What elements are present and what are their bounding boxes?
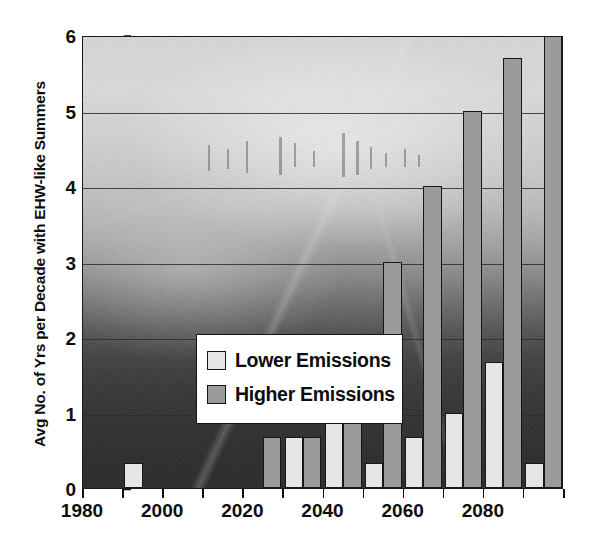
skyline-building bbox=[356, 141, 359, 175]
y-tick-label: 1 bbox=[65, 404, 76, 423]
y-tick-label: 3 bbox=[65, 253, 76, 272]
bar-higher-2060s bbox=[423, 186, 441, 488]
skyline-building bbox=[227, 149, 229, 169]
chart-figure: Avg No. of Yrs per Decade with EHW-like … bbox=[0, 0, 591, 557]
bar-higher-2070s bbox=[463, 111, 481, 489]
legend-item-lower[interactable]: Lower Emissions bbox=[207, 343, 392, 377]
gridline bbox=[83, 113, 562, 114]
bar-lower-1990s bbox=[124, 463, 142, 488]
x-tick-label: 1980 bbox=[61, 500, 103, 522]
bar-lower-2060s bbox=[405, 437, 423, 488]
bar-higher-2080s bbox=[503, 58, 521, 488]
y-axis-tick-labels: 0123456 bbox=[48, 36, 76, 489]
y-tick-label: 5 bbox=[65, 102, 76, 121]
x-tick-label: 2000 bbox=[141, 500, 183, 522]
legend-item-higher[interactable]: Higher Emissions bbox=[207, 377, 392, 411]
bar-lower-2070s bbox=[445, 413, 463, 489]
y-axis-label: Avg No. of Yrs per Decade with EHW-like … bbox=[31, 29, 49, 499]
x-tick-mark bbox=[483, 489, 485, 498]
x-tick-mark bbox=[122, 489, 124, 498]
gridline bbox=[83, 264, 562, 265]
x-tick-label: 2040 bbox=[301, 500, 343, 522]
legend-swatch-lower-icon bbox=[207, 351, 226, 370]
x-tick-mark bbox=[563, 489, 565, 498]
x-tick-mark bbox=[363, 489, 365, 498]
skyline-building bbox=[404, 149, 406, 167]
skyline-building bbox=[342, 133, 345, 177]
x-tick-mark bbox=[323, 489, 325, 498]
skyline-building bbox=[385, 153, 387, 167]
x-tick-label: 2020 bbox=[221, 500, 263, 522]
bar-higher-2030s bbox=[303, 437, 321, 488]
x-tick-mark bbox=[403, 489, 405, 498]
bar-lower-2080s bbox=[485, 362, 503, 488]
bar-lower-2090s bbox=[525, 463, 543, 488]
skyline-building bbox=[418, 155, 420, 167]
legend-swatch-higher-icon bbox=[207, 385, 226, 404]
plot-area: Lower EmissionsHigher Emissions bbox=[82, 36, 563, 489]
legend: Lower EmissionsHigher Emissions bbox=[196, 334, 403, 424]
skyline-building bbox=[370, 147, 372, 169]
x-axis-tick-labels: 198020002020204020602080 bbox=[82, 500, 563, 530]
bar-lower-2030s bbox=[285, 437, 303, 488]
x-tick-mark bbox=[282, 489, 284, 498]
skyline-building bbox=[313, 151, 315, 167]
x-tick-label: 2060 bbox=[382, 500, 424, 522]
bar-higher-2020s bbox=[263, 437, 281, 488]
x-tick-mark bbox=[82, 489, 84, 498]
x-tick-mark bbox=[523, 489, 525, 498]
skyline-building bbox=[279, 137, 282, 175]
bar-lower-2050s bbox=[365, 463, 383, 488]
skyline-building bbox=[208, 145, 211, 171]
legend-label: Higher Emissions bbox=[235, 383, 395, 406]
y-tick-label: 4 bbox=[65, 178, 76, 197]
skyline-building bbox=[294, 143, 296, 167]
y-tick-label: 2 bbox=[65, 329, 76, 348]
y-tick-label: 0 bbox=[65, 480, 76, 499]
skyline-building bbox=[246, 141, 248, 173]
legend-label: Lower Emissions bbox=[235, 349, 391, 372]
x-tick-mark bbox=[443, 489, 445, 498]
y-tick-label: 6 bbox=[65, 27, 76, 46]
x-tick-mark bbox=[242, 489, 244, 498]
gridline bbox=[83, 188, 562, 189]
x-tick-mark bbox=[162, 489, 164, 498]
x-tick-label: 2080 bbox=[462, 500, 504, 522]
x-tick-mark bbox=[202, 489, 204, 498]
bar-higher-2090s bbox=[544, 36, 562, 488]
